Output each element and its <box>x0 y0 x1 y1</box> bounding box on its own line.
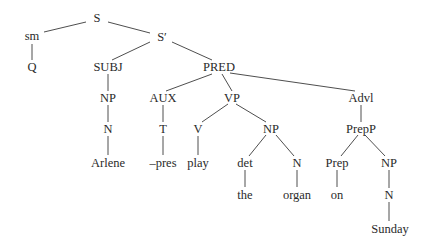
tree-edge <box>365 135 385 156</box>
tree-node-arlene: Arlene <box>91 156 125 170</box>
tree-edge <box>222 74 232 91</box>
tree-node-prep: Prep <box>326 156 349 170</box>
tree-node-det: det <box>237 156 253 170</box>
tree-node-q: Q <box>27 60 36 74</box>
tree-edge <box>276 135 294 156</box>
tree-node-pres: –pres <box>148 156 176 170</box>
tree-edge <box>230 73 355 91</box>
tree-node-subj: SUBJ <box>93 60 122 74</box>
tree-edge <box>202 104 228 122</box>
tree-node-v: V <box>193 122 202 136</box>
tree-node-np2: NP <box>263 122 279 136</box>
tree-node-np1: NP <box>100 91 116 105</box>
tree-node-prepp: PrepP <box>346 122 376 136</box>
tree-node-s: S <box>94 11 101 25</box>
tree-node-advl: Advl <box>349 91 375 105</box>
tree-node-on: on <box>331 188 344 202</box>
tree-node-sm: sm <box>25 29 40 43</box>
tree-edge <box>249 135 266 156</box>
tree-node-vp: VP <box>224 91 240 105</box>
syntax-tree-diagram: SsmQS′SUBJPREDNPNArleneAUXT–presVPVplayN… <box>0 0 431 248</box>
tree-node-np3: NP <box>381 156 397 170</box>
tree-edge <box>341 135 358 156</box>
tree-node-the: the <box>237 188 253 202</box>
tree-node-t: T <box>159 122 167 136</box>
tree-node-pred: PRED <box>203 60 235 74</box>
tree-node-n1: N <box>103 122 112 136</box>
tree-edge <box>172 42 212 60</box>
tree-nodes: SsmQS′SUBJPREDNPNArleneAUXT–presVPVplayN… <box>25 11 410 236</box>
tree-node-sunday: Sunday <box>371 222 409 236</box>
tree-edge <box>112 42 150 60</box>
tree-node-aux: AUX <box>149 91 176 105</box>
tree-node-n3: N <box>384 188 393 202</box>
tree-node-play: play <box>187 156 209 170</box>
tree-edge <box>166 74 212 91</box>
tree-edge <box>44 22 86 32</box>
tree-node-organ: organ <box>283 188 312 202</box>
tree-node-s1: S′ <box>157 30 167 44</box>
tree-edge <box>108 22 150 33</box>
tree-node-n2: N <box>292 156 301 170</box>
tree-edge <box>236 104 266 122</box>
